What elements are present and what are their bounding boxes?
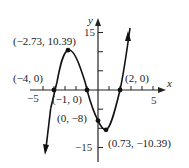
label-local-min: (0.73, −10.39) xyxy=(108,137,171,150)
tick-label-x-5: 5 xyxy=(151,94,157,106)
point-yint xyxy=(96,118,101,123)
label-local-max: (−2.73, 10.39) xyxy=(13,35,76,48)
label-yint: (0, −8) xyxy=(57,112,87,125)
point-xint-neg1 xyxy=(85,88,90,93)
y-axis-arrow-icon xyxy=(95,18,101,26)
label-xint-neg1: (−1, 0) xyxy=(52,93,82,106)
x-axis-label: x xyxy=(166,77,172,89)
curve-left-tail xyxy=(46,108,51,148)
tick-label-y-neg15: −15 xyxy=(75,141,93,153)
point-local-min xyxy=(104,127,109,132)
x-axis-arrow-icon xyxy=(158,87,166,93)
point-xint-2 xyxy=(118,88,123,93)
function-graph: (−2.73, 10.39) (−4, 0) (−1, 0) (2, 0) (0… xyxy=(0,0,189,168)
point-xint-neg4 xyxy=(52,88,57,93)
y-axis-label: y xyxy=(87,14,93,26)
point-local-max xyxy=(66,48,71,53)
tick-label-y-15: 15 xyxy=(84,26,96,38)
tick-label-x-neg5: −5 xyxy=(27,92,39,104)
label-xint-neg4: (−4, 0) xyxy=(13,72,43,85)
label-xint-2: (2, 0) xyxy=(125,72,149,85)
